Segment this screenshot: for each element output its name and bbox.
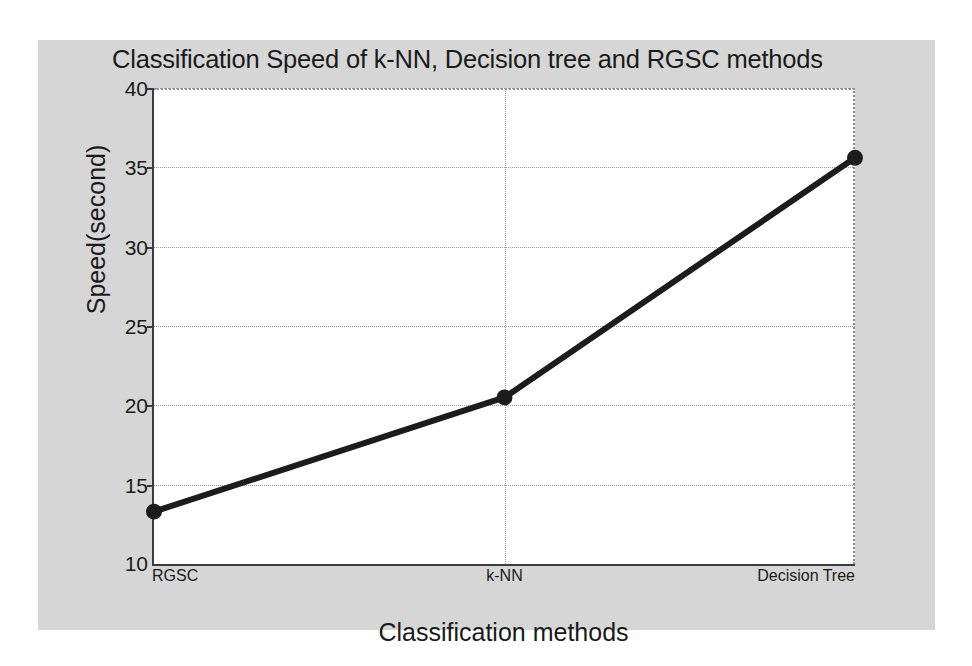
data-point-decision-tree	[847, 150, 863, 166]
ytick-mark-20	[147, 405, 154, 407]
ytick-mark-30	[147, 247, 154, 249]
data-point-knn	[497, 389, 513, 405]
ytick-label-30: 30	[125, 236, 148, 260]
ytick-label-35: 35	[125, 156, 148, 180]
xtick-label-rgsc: RGSC	[152, 567, 198, 585]
x-axis-label: Classification methods	[152, 618, 855, 647]
figure-panel: Classification Speed of k-NN, Decision t…	[38, 40, 935, 630]
ytick-mark-25	[147, 326, 154, 328]
plot-area: 40 35 30 25 20 15 10 RGSC k-NN Deci	[152, 88, 855, 566]
xtick-label-decision-tree: Decision Tree	[757, 567, 855, 585]
xtick-label-knn: k-NN	[486, 567, 522, 585]
ytick-mark-15	[147, 485, 154, 487]
data-series-line	[154, 88, 855, 564]
ytick-label-20: 20	[125, 394, 148, 418]
chart-title: Classification Speed of k-NN, Decision t…	[112, 44, 932, 74]
ytick-label-10: 10	[125, 552, 148, 576]
ytick-label-40: 40	[125, 77, 148, 101]
y-axis-label: Speed(second)	[82, 100, 111, 360]
ytick-mark-35	[147, 167, 154, 169]
ytick-mark-40	[147, 88, 154, 90]
data-point-rgsc	[146, 504, 162, 520]
ytick-label-25: 25	[125, 315, 148, 339]
ytick-label-15: 15	[125, 474, 148, 498]
series-polyline	[154, 158, 855, 512]
